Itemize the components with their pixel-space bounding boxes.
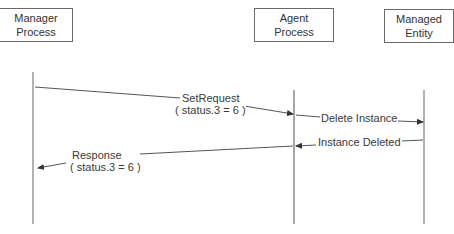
instance-deleted-arrow-tail [296,145,316,146]
response-params: ( status.3 = 6 ) [70,161,141,174]
manager-label-line1: Manager [14,11,57,25]
managed-label-line2: Entity [405,26,433,40]
agent-label-line2: Process [274,25,314,39]
managed-label-line1: Managed [396,12,442,26]
managed-entity-box: Managed Entity [384,9,454,43]
delete-instance-arrow-tail [398,121,423,122]
agent-process-box: Agent Process [254,8,334,42]
manager-label-line2: Process [16,25,56,39]
instance-deleted-arrow [402,140,423,141]
delete-instance-label: Delete Instance [321,112,397,125]
setrequest-params: ( status.3 = 6 ) [175,104,246,117]
agent-label-line1: Agent [280,11,309,25]
manager-process-box: Manager Process [0,8,73,42]
setrequest-arrow-tail [244,106,293,114]
response-arrow [140,146,293,154]
delete-instance-arrow [296,115,320,117]
instance-deleted-label: Instance Deleted [318,136,401,149]
response-arrow-tail [38,163,66,168]
setrequest-arrow [35,87,180,98]
